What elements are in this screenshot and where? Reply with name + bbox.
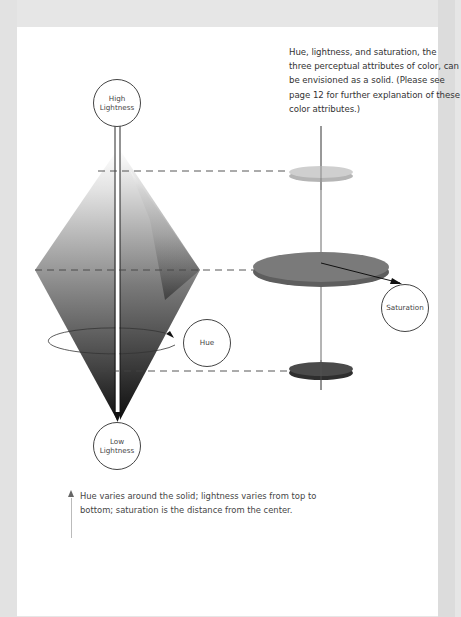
lightness-axis [114, 102, 122, 422]
low-lightness-line2: Lightness [100, 446, 134, 456]
disk-dark [289, 360, 353, 390]
intro-text: Hue, lightness, and saturation, the thre… [289, 45, 461, 116]
disk-mid [253, 252, 402, 287]
hue-label: Hue [183, 319, 231, 367]
caption-triangle-icon [68, 490, 74, 497]
caption-rule [71, 498, 72, 538]
disk-light [289, 126, 353, 190]
saturation-text: Saturation [386, 303, 423, 313]
low-lightness-line1: Low [100, 437, 134, 447]
high-lightness-line1: High [100, 94, 134, 104]
figure-caption: Hue varies around the solid; lightness v… [80, 490, 340, 517]
high-lightness-line2: Lightness [100, 103, 134, 113]
low-lightness-label: Low Lightness [93, 422, 141, 470]
high-lightness-label: High Lightness [93, 79, 141, 127]
saturation-label: Saturation [381, 284, 429, 332]
hue-text: Hue [200, 338, 214, 348]
